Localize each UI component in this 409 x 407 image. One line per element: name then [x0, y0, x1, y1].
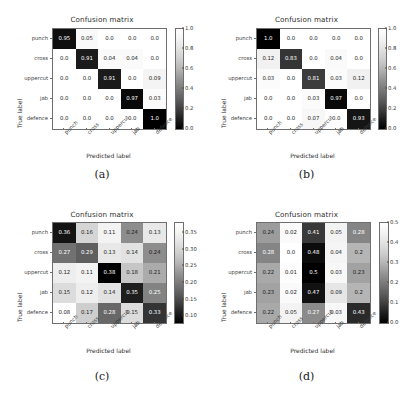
heatmap-cell: 0.0	[76, 89, 99, 109]
panel-letter: (b)	[204, 168, 409, 181]
heatmap-cell: 0.04	[325, 243, 348, 263]
heatmap-cell: 0.0	[325, 29, 348, 49]
x-tick-mark	[267, 128, 268, 130]
y-tick-label: uppercut	[204, 75, 252, 81]
heatmap-cell: 0.0	[280, 89, 303, 109]
y-tick-mark	[254, 38, 256, 39]
y-tick-mark	[50, 232, 52, 233]
colorbar-tick-mark	[387, 242, 389, 243]
y-tick-mark	[50, 292, 52, 293]
y-tick-mark	[50, 58, 52, 59]
heatmap-cell: 0.28	[257, 243, 280, 263]
heatmap-cell: 0.0	[143, 29, 166, 49]
y-tick-mark	[50, 312, 52, 313]
heatmap-cell: 0.41	[302, 223, 325, 243]
heatmap-cell: 0.24	[257, 223, 280, 243]
y-tick-mark	[50, 78, 52, 79]
heatmap-cell: 0.28	[347, 223, 370, 243]
heatmap-cell: 0.83	[280, 49, 303, 69]
confusion-matrix-heatmap: 0.240.020.410.050.280.280.00.480.040.20.…	[256, 222, 371, 324]
y-axis-title: True label	[220, 99, 227, 128]
colorbar-tick-mark	[182, 315, 184, 316]
heatmap-cell: 0.2	[347, 283, 370, 303]
x-axis-title: Predicted label	[52, 347, 165, 354]
colorbar-tick-mark	[182, 265, 184, 266]
heatmap-cell: 0.03	[302, 89, 325, 109]
y-tick-label: uppercut	[204, 269, 252, 275]
y-tick-mark	[50, 118, 52, 119]
heatmap-cell: 0.0	[280, 243, 303, 263]
heatmap-cell: 0.04	[98, 49, 121, 69]
heatmap-cell: 0.15	[53, 283, 76, 303]
y-tick-label: defence	[204, 309, 252, 315]
x-tick-mark	[109, 322, 110, 324]
y-axis-title: True label	[220, 293, 227, 322]
x-tick-mark	[335, 322, 336, 324]
heatmap-cell: 0.97	[325, 89, 348, 109]
y-tick-label: cross	[0, 55, 48, 61]
heatmap-cell: 0.0	[98, 89, 121, 109]
colorbar-tick-label: 0.3	[390, 259, 398, 265]
colorbar-tick-mark	[387, 222, 389, 223]
chart-title: Confusion matrix	[204, 210, 409, 219]
colorbar-tick-label: 0.6	[185, 65, 193, 71]
heatmap-cell: 0.0	[121, 29, 144, 49]
y-tick-label: punch	[204, 229, 252, 235]
colorbar-tick-mark	[182, 282, 184, 283]
heatmap-cell: 0.04	[121, 49, 144, 69]
y-tick-label: cross	[204, 55, 252, 61]
colorbar-gradient	[380, 223, 388, 323]
colorbar-tick-mark	[385, 48, 387, 49]
y-tick-mark	[254, 118, 256, 119]
heatmap-cell: 0.03	[257, 69, 280, 89]
heatmap-cell: 0.81	[302, 69, 325, 89]
colorbar-tick-mark	[182, 88, 184, 89]
heatmap-cell: 0.13	[98, 243, 121, 263]
y-tick-label: jab	[204, 289, 252, 295]
heatmap-cell: 0.05	[76, 29, 99, 49]
heatmap-cell: 0.03	[143, 89, 166, 109]
colorbar-tick-mark	[385, 68, 387, 69]
heatmap-cell: 0.0	[302, 49, 325, 69]
chart-title: Confusion matrix	[0, 15, 204, 24]
heatmap-cell: 0.21	[143, 263, 166, 283]
confusion-matrix-heatmap: 1.00.00.00.00.00.120.830.00.040.00.030.0…	[256, 28, 371, 130]
heatmap-cell: 0.0	[121, 69, 144, 89]
heatmap-cell: 0.11	[76, 263, 99, 283]
heatmap-cell: 0.0	[347, 49, 370, 69]
y-tick-mark	[50, 38, 52, 39]
heatmap-cell: 0.48	[302, 243, 325, 263]
heatmap-cell: 0.02	[280, 283, 303, 303]
heatmap-cell: 0.14	[98, 283, 121, 303]
heatmap-cell: 1.0	[257, 29, 280, 49]
y-tick-label: defence	[0, 309, 48, 315]
colorbar-tick-label: 1.0	[185, 25, 193, 31]
panel-d: Confusion matrix0.240.020.410.050.280.28…	[204, 200, 409, 407]
panel-b: Confusion matrix1.00.00.00.00.00.120.830…	[204, 0, 409, 200]
colorbar-tick-label: 0.8	[185, 45, 193, 51]
y-tick-mark	[254, 58, 256, 59]
heatmap-cell: 0.91	[76, 49, 99, 69]
heatmap-cell: 0.0	[53, 69, 76, 89]
colorbar	[174, 222, 184, 324]
colorbar-tick-mark	[385, 88, 387, 89]
x-tick-mark	[313, 322, 314, 324]
y-tick-label: uppercut	[0, 75, 48, 81]
heatmap-cell: 0.5	[302, 263, 325, 283]
y-tick-label: jab	[0, 289, 48, 295]
heatmap-cell: 0.12	[76, 283, 99, 303]
x-tick-mark	[131, 128, 132, 130]
heatmap-cell: 0.12	[53, 263, 76, 283]
heatmap-cell: 0.0	[143, 49, 166, 69]
heatmap-cell: 0.36	[53, 223, 76, 243]
x-tick-mark	[63, 322, 64, 324]
y-tick-label: punch	[0, 229, 48, 235]
panel-c: Confusion matrix0.360.160.110.240.130.27…	[0, 200, 204, 407]
panel-letter: (d)	[204, 370, 409, 383]
y-tick-mark	[50, 252, 52, 253]
y-tick-mark	[254, 292, 256, 293]
y-axis-title: True label	[16, 99, 23, 128]
heatmap-cell: 0.13	[143, 223, 166, 243]
colorbar-tick-label: 0.0	[185, 125, 193, 131]
heatmap-cell: 0.04	[325, 49, 348, 69]
